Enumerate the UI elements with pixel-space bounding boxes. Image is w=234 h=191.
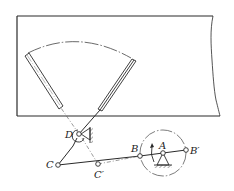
- joint-B: [138, 154, 143, 159]
- label-D: D: [64, 129, 73, 140]
- pivot-A: [154, 151, 172, 168]
- wiper-blade-right: [98, 59, 136, 111]
- sweep-arc: [28, 42, 131, 58]
- panel: [17, 16, 220, 116]
- joint-B-prime: [184, 148, 189, 153]
- rotation-arrow-icon: [150, 143, 154, 162]
- label-B-prime: B′: [189, 145, 200, 156]
- break-line: [211, 16, 220, 116]
- label-A: A: [158, 140, 166, 151]
- label-C: C: [46, 159, 54, 170]
- joint-C-prime: [96, 162, 101, 167]
- wiper-blade-left: [25, 53, 63, 109]
- label-B: B: [130, 143, 138, 154]
- label-C-prime: C′: [94, 169, 105, 180]
- rocker-DC: [58, 138, 77, 165]
- mechanism-diagram: D C C′ B A B′: [0, 0, 234, 191]
- joint-C: [56, 163, 61, 168]
